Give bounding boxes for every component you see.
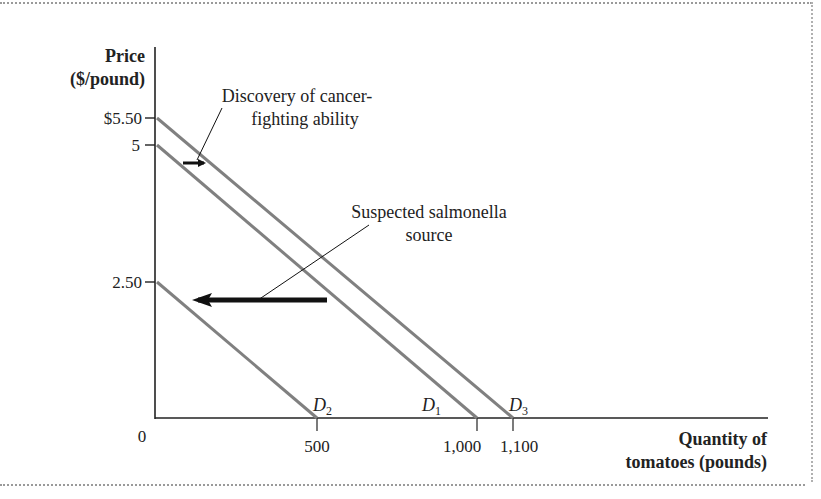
x-tick-label-1100: 1,100 — [500, 437, 538, 456]
demand-shift-chart: $5.50 5 2.50 0 500 1,000 1,100 Price ($/… — [0, 0, 821, 499]
x-tick-label-1000: 1,000 — [443, 437, 481, 456]
annotation-salmonella-line1: Suspected salmonella — [351, 202, 506, 222]
demand-curve-d1 — [157, 145, 477, 418]
annotation-cancer-line2: fighting ability — [251, 109, 359, 129]
curve-label-d2: D2 — [312, 395, 332, 418]
annotation-cancer-leader — [197, 108, 222, 160]
annotation-salmonella-leader — [258, 225, 369, 300]
y-tick-label-5.50: $5.50 — [104, 109, 142, 128]
demand-curve-d3 — [157, 118, 513, 418]
x-tick-label-500: 500 — [304, 437, 330, 456]
x-ticks — [317, 418, 513, 431]
y-tick-label-2.50: 2.50 — [112, 273, 142, 292]
annotation-salmonella-line2: source — [406, 225, 453, 245]
x-tick-label-0: 0 — [138, 427, 147, 446]
curve-label-d1: D1 — [421, 395, 441, 418]
y-tick-label-5: 5 — [132, 136, 141, 155]
curve-label-d3: D3 — [508, 395, 528, 418]
y-ticks — [145, 118, 155, 282]
y-axis-title-line2: ($/pound) — [70, 69, 145, 90]
x-axis-title-line1: Quantity of — [678, 429, 768, 449]
y-axis-title-line1: Price — [105, 46, 145, 66]
annotation-cancer-line1: Discovery of cancer- — [222, 86, 373, 106]
x-axis-title-line2: tomatoes (pounds) — [625, 452, 767, 473]
